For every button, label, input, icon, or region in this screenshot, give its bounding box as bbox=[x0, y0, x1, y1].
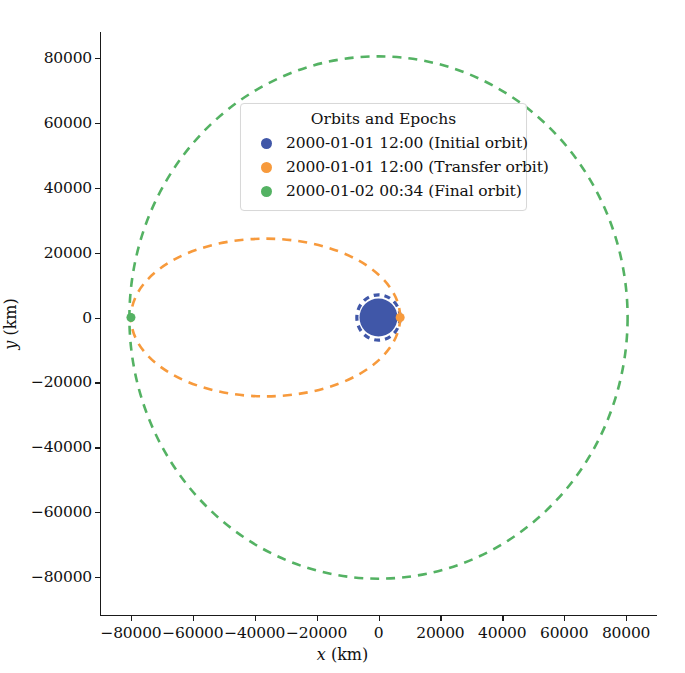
y-tick-label: 20000 bbox=[44, 244, 92, 262]
epoch-marker[interactable] bbox=[360, 299, 398, 337]
y-tick-mark bbox=[95, 318, 100, 319]
x-tick-mark bbox=[626, 616, 627, 621]
y-tick-mark bbox=[95, 123, 100, 124]
x-tick-label: −20000 bbox=[286, 624, 347, 642]
x-tick-mark bbox=[131, 616, 132, 621]
x-tick-mark bbox=[317, 616, 318, 621]
x-tick-mark bbox=[255, 616, 256, 621]
y-axis-label-variable: y bbox=[1, 341, 20, 350]
legend-marker-icon bbox=[261, 162, 272, 173]
y-tick-label: −20000 bbox=[31, 373, 92, 391]
x-tick-label: 60000 bbox=[540, 624, 588, 642]
x-axis-label-variable: x bbox=[317, 645, 326, 664]
y-tick-label: −40000 bbox=[31, 438, 92, 456]
x-tick-label: −80000 bbox=[100, 624, 161, 642]
legend-title: Orbits and Epochs bbox=[250, 110, 517, 128]
legend-marker-icon bbox=[261, 186, 272, 197]
x-tick-mark bbox=[379, 616, 380, 621]
x-tick-mark bbox=[564, 616, 565, 621]
x-tick-label: 20000 bbox=[416, 624, 464, 642]
x-axis-label: x (km) bbox=[317, 645, 368, 664]
x-tick-mark bbox=[502, 616, 503, 621]
x-tick-mark bbox=[193, 616, 194, 621]
legend-item-label: 2000-01-01 12:00 (Transfer orbit) bbox=[286, 158, 549, 176]
x-tick-label: 40000 bbox=[478, 624, 526, 642]
legend-item-label: 2000-01-02 00:34 (Final orbit) bbox=[286, 182, 522, 200]
x-tick-mark bbox=[440, 616, 441, 621]
legend-item[interactable]: 2000-01-01 12:00 (Initial orbit) bbox=[250, 131, 517, 155]
legend-box: Orbits and Epochs 2000-01-01 12:00 (Init… bbox=[240, 103, 527, 211]
y-tick-label: −60000 bbox=[31, 503, 92, 521]
y-tick-label: −80000 bbox=[31, 568, 92, 586]
y-tick-label: 80000 bbox=[44, 49, 92, 67]
y-tick-mark bbox=[95, 382, 100, 383]
legend-marker-icon bbox=[261, 138, 272, 149]
y-tick-label: 60000 bbox=[44, 114, 92, 132]
legend-item[interactable]: 2000-01-02 00:34 (Final orbit) bbox=[250, 179, 517, 203]
y-tick-label: 0 bbox=[82, 309, 92, 327]
y-axis-label-unit: (km) bbox=[1, 298, 20, 340]
x-tick-label: 0 bbox=[374, 624, 384, 642]
legend-item[interactable]: 2000-01-01 12:00 (Transfer orbit) bbox=[250, 155, 517, 179]
y-tick-mark bbox=[95, 577, 100, 578]
y-tick-label: 40000 bbox=[44, 179, 92, 197]
x-tick-label: 80000 bbox=[602, 624, 650, 642]
legend-entries: 2000-01-01 12:00 (Initial orbit)2000-01-… bbox=[250, 131, 517, 203]
x-tick-label: −40000 bbox=[224, 624, 285, 642]
y-tick-mark bbox=[95, 188, 100, 189]
y-tick-mark bbox=[95, 447, 100, 448]
y-tick-mark bbox=[95, 512, 100, 513]
y-tick-mark bbox=[95, 58, 100, 59]
x-tick-label: −60000 bbox=[162, 624, 223, 642]
y-axis-label: y (km) bbox=[1, 298, 20, 349]
y-tick-mark bbox=[95, 253, 100, 254]
epoch-marker[interactable] bbox=[396, 313, 405, 322]
x-axis-label-unit: (km) bbox=[326, 645, 368, 664]
orbit-plot-figure: y (km) 800006000040000200000−20000−40000… bbox=[0, 0, 685, 673]
epoch-marker[interactable] bbox=[126, 313, 135, 322]
legend-item-label: 2000-01-01 12:00 (Initial orbit) bbox=[286, 134, 528, 152]
